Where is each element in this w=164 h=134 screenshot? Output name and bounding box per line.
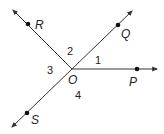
geometry-diagram: R Q P S O 2 1 3 4 bbox=[0, 0, 164, 134]
label-P: P bbox=[129, 75, 137, 89]
label-Q: Q bbox=[121, 27, 130, 41]
angle-label-4: 4 bbox=[75, 89, 81, 101]
angle-label-1: 1 bbox=[95, 54, 101, 66]
label-O: O bbox=[68, 73, 77, 87]
angle-label-2: 2 bbox=[67, 45, 73, 57]
angle-label-3: 3 bbox=[47, 64, 53, 76]
point-S-dot bbox=[25, 111, 30, 116]
point-Q-dot bbox=[116, 23, 121, 28]
label-S: S bbox=[31, 113, 39, 127]
point-R-dot bbox=[26, 22, 31, 27]
ray-OS bbox=[12, 69, 72, 127]
point-P-dot bbox=[135, 67, 140, 72]
label-R: R bbox=[35, 18, 44, 32]
